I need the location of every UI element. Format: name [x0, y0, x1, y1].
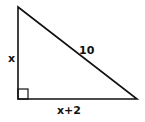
label-vertical-leg: x [8, 52, 15, 65]
right-angle-marker [18, 89, 28, 99]
right-triangle-diagram: x 10 x+2 [0, 0, 145, 122]
triangle-shape [18, 7, 137, 99]
label-hypotenuse: 10 [79, 44, 95, 57]
label-horizontal-leg: x+2 [57, 104, 81, 117]
